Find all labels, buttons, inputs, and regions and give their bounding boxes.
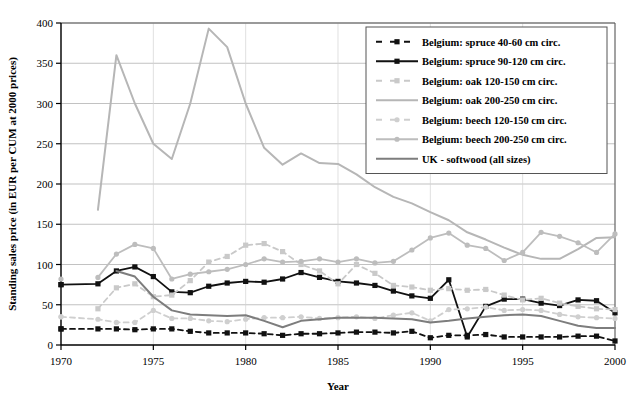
x-axis-ticks: 1970197519801985199019952000 [50, 345, 627, 367]
legend-label: Belgium: oak 120-150 cm circ. [422, 76, 558, 87]
chart-container: 050100150200250300350400 197019751980198… [0, 0, 628, 407]
y-tick-label: 200 [37, 178, 54, 190]
chart-legend: Belgium: spruce 40-60 cm circ.Belgium: s… [366, 27, 607, 174]
extra-point [58, 314, 63, 319]
x-tick-label: 1970 [50, 355, 73, 367]
x-tick-label: 1995 [512, 355, 535, 367]
extra-point [58, 282, 63, 287]
y-tick-label: 300 [37, 98, 54, 110]
x-axis-title: Year [327, 380, 349, 392]
extra-point [58, 276, 63, 281]
x-tick-label: 1980 [235, 355, 258, 367]
y-tick-label: 100 [37, 259, 54, 271]
line-chart: 050100150200250300350400 197019751980198… [0, 0, 628, 407]
legend-label: Belgium: spruce 40-60 cm circ. [422, 37, 561, 48]
x-tick-label: 2000 [604, 355, 627, 367]
y-tick-label: 250 [37, 138, 54, 150]
series-5 [95, 230, 617, 282]
x-tick-label: 1975 [142, 355, 165, 367]
y-axis-title: Standing sales price (in EUR per CUM at … [6, 57, 19, 311]
legend-label: Belgium: oak 200-250 cm circ. [422, 95, 558, 106]
legend-label: Belgium: beech 200-250 cm circ. [422, 134, 567, 145]
y-axis-ticks: 050100150200250300350400 [37, 17, 62, 351]
legend-label: Belgium: spruce 90-120 cm circ. [422, 56, 566, 67]
y-tick-label: 0 [48, 339, 54, 351]
x-tick-label: 1990 [419, 355, 442, 367]
y-tick-label: 150 [37, 218, 54, 230]
y-tick-label: 400 [37, 17, 54, 29]
y-tick-label: 50 [42, 299, 54, 311]
x-tick-label: 1985 [327, 355, 350, 367]
legend-label: Belgium: beech 120-150 cm circ. [422, 115, 567, 126]
legend-label: UK - softwood (all sizes) [422, 154, 531, 166]
extra-point [58, 326, 63, 331]
y-tick-label: 350 [37, 57, 54, 69]
